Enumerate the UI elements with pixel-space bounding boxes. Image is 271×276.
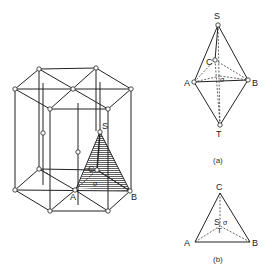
panel-a-label-c: C — [206, 57, 213, 67]
panel-a-caption: (a) — [213, 156, 223, 165]
panel-b-caption: (b) — [213, 255, 223, 264]
panel-b-label-a: A — [184, 238, 190, 248]
panel-b-label-sigma: σ — [223, 219, 228, 226]
panel-b-label-c: C — [216, 182, 223, 192]
prism-label-c: C — [88, 164, 95, 174]
panel-a-atoms — [192, 23, 250, 127]
panel-b-triangle — [195, 193, 250, 242]
prism-label-a: A — [70, 192, 76, 202]
prism-label-sigma: σ — [93, 180, 98, 187]
panel-a-label-t: T — [216, 129, 222, 139]
panel-a-label-a: A — [184, 78, 190, 88]
prism-label-s: S — [102, 121, 108, 131]
prism-label-b: B — [131, 192, 137, 202]
panel-a-label-b: B — [252, 78, 258, 88]
panel-a-label-s: S — [214, 11, 220, 21]
panel-a-bipyramid — [194, 25, 248, 125]
panel-a-label-sigma: σ — [220, 76, 225, 83]
crystal-structure-diagram: S C A B σ S C A B T σ (a) — [0, 0, 271, 276]
panel-b-label-b: B — [252, 238, 258, 248]
panel-b-label-t: T — [217, 226, 222, 235]
